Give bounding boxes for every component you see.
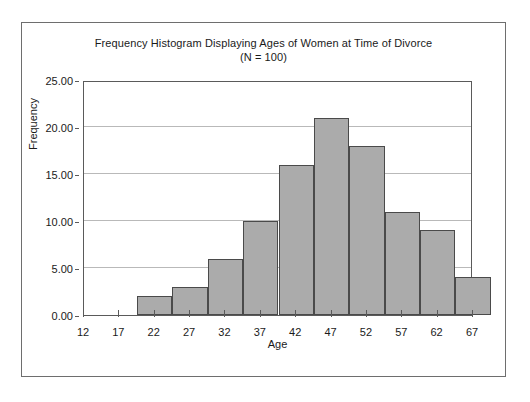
x-axis-tick-mark [260, 310, 261, 317]
x-axis-tick-mark [295, 310, 296, 317]
x-axis-tick-mark [472, 310, 473, 317]
x-axis-tick-label: 22 [148, 326, 160, 338]
x-axis-tick-label: 57 [395, 326, 407, 338]
y-axis-tick-label: 0.00 [52, 310, 73, 322]
x-axis-tick-label: 32 [218, 326, 230, 338]
histogram-bar [279, 165, 314, 315]
y-axis-tick-label: 15.00 [45, 169, 73, 181]
x-axis-tick-label: 17 [112, 326, 124, 338]
chart-title: Frequency Histogram Displaying Ages of W… [21, 36, 506, 50]
x-axis-tick-mark [437, 310, 438, 317]
y-axis: 0.005.0010.0015.0020.0025.00 [21, 81, 79, 316]
y-axis-tick-label: 20.00 [45, 122, 73, 134]
histogram-bar [314, 118, 349, 315]
y-axis-tick-label: 5.00 [52, 263, 73, 275]
x-axis-tick-mark [366, 310, 367, 317]
x-axis-tick-label: 12 [77, 326, 89, 338]
x-axis-tick-label: 67 [466, 326, 478, 338]
x-axis-tick-label: 52 [360, 326, 372, 338]
x-axis-tick-mark [189, 310, 190, 317]
x-axis: 121722273237424752576267 [83, 317, 472, 339]
histogram-bar [172, 287, 207, 315]
y-axis-tick-mark [75, 269, 79, 270]
y-axis-tick-label: 25.00 [45, 75, 73, 87]
y-axis-tick-mark [75, 175, 79, 176]
histogram-figure: Frequency Histogram Displaying Ages of W… [0, 0, 530, 402]
x-axis-tick-label: 42 [289, 326, 301, 338]
y-axis-tick-mark [75, 316, 79, 317]
x-axis-tick-mark [154, 310, 155, 317]
y-axis-tick-label: 10.00 [45, 216, 73, 228]
histogram-bar [385, 212, 420, 315]
x-axis-tick-label: 62 [431, 326, 443, 338]
histogram-bar [243, 221, 278, 315]
chart-title-block: Frequency Histogram Displaying Ages of W… [21, 36, 506, 64]
x-axis-tick-mark [331, 310, 332, 317]
y-axis-tick-mark [75, 81, 79, 82]
x-axis-tick-mark [224, 310, 225, 317]
x-axis-tick-mark [401, 310, 402, 317]
y-axis-tick-mark [75, 128, 79, 129]
histogram-bar [349, 146, 384, 315]
chart-subtitle: (N = 100) [21, 50, 506, 64]
x-axis-tick-label: 47 [324, 326, 336, 338]
x-axis-title: Age [83, 338, 472, 350]
histogram-bar [208, 259, 243, 315]
x-axis-tick-mark [83, 310, 84, 317]
histogram-bar [420, 230, 455, 315]
x-axis-tick-mark [118, 310, 119, 317]
y-axis-tick-mark [75, 222, 79, 223]
x-axis-tick-label: 37 [254, 326, 266, 338]
x-axis-tick-label: 27 [183, 326, 195, 338]
bars-layer [84, 82, 471, 315]
plot-area [83, 81, 472, 316]
